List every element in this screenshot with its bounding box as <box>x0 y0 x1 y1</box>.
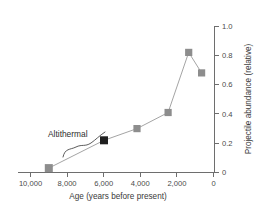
data-point-500 <box>198 69 205 76</box>
data-point-1200 <box>185 49 192 56</box>
y-axis-ticks <box>215 26 219 173</box>
x-tick-label-2000: 2,000 <box>167 179 186 188</box>
y-tick-label-0: 0 <box>222 168 226 177</box>
y-tick-label-0-2: 0.2 <box>222 139 233 148</box>
projectile-abundance-chart: 10,000 8,000 6,000 4,000 2,000 0 0 0.2 0… <box>0 0 268 210</box>
data-markers <box>45 49 205 172</box>
y-tick-label-0-6: 0.6 <box>222 80 233 89</box>
data-point-4200 <box>133 125 140 132</box>
y-tick-label-1-0: 1.0 <box>222 22 233 31</box>
chart-container: 10,000 8,000 6,000 4,000 2,000 0 0 0.2 0… <box>0 0 268 210</box>
data-point-9000 <box>45 164 53 172</box>
x-tick-label-10000: 10,000 <box>19 179 42 188</box>
altithermal-annotation-label: Altithermal <box>48 129 88 139</box>
y-axis-title: Projectile abundance (relative) <box>244 43 253 154</box>
x-tick-label-0: 0 <box>211 179 215 188</box>
x-tick-label-8000: 8,000 <box>58 179 77 188</box>
series-line <box>49 52 202 168</box>
x-axis-title: Age (years before present) <box>69 192 167 201</box>
y-tick-label-0-8: 0.8 <box>222 51 233 60</box>
x-axis-ticks <box>31 173 214 177</box>
x-tick-label-4000: 4,000 <box>131 179 150 188</box>
data-point-6000 <box>100 136 108 144</box>
data-point-2500 <box>165 109 172 116</box>
x-tick-label-6000: 6,000 <box>94 179 113 188</box>
y-tick-label-0-4: 0.4 <box>222 110 233 119</box>
